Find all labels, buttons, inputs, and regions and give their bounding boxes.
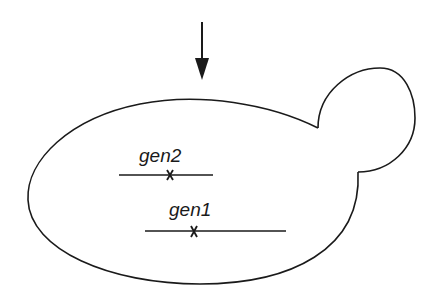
diagram-canvas: gen2 gen1 bbox=[0, 0, 428, 294]
bud-outline bbox=[318, 68, 415, 172]
cell-diagram bbox=[0, 0, 428, 294]
gen2-chromosome bbox=[119, 170, 213, 180]
gen1-label: gen1 bbox=[169, 200, 211, 219]
gen1-chromosome bbox=[145, 226, 286, 237]
down-arrow-icon bbox=[195, 22, 209, 80]
mother-cell-outline bbox=[28, 99, 358, 284]
gen2-label: gen2 bbox=[139, 146, 181, 165]
